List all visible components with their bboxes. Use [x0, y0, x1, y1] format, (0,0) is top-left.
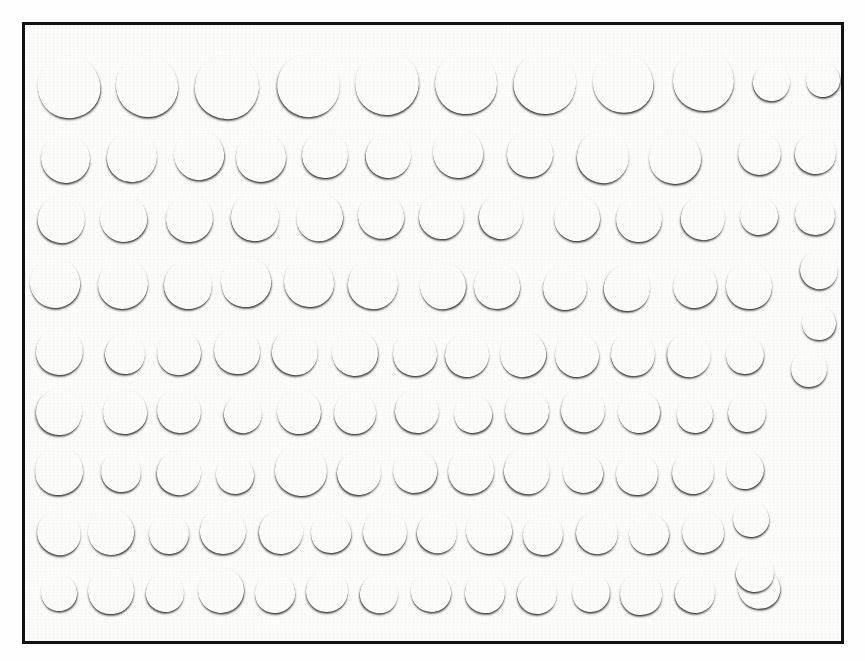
coin [268, 325, 323, 380]
coin [87, 567, 135, 615]
coin [99, 450, 143, 494]
coin [98, 259, 148, 309]
coin [356, 191, 407, 242]
coin [160, 257, 217, 314]
coin [37, 571, 81, 615]
coin [389, 445, 441, 497]
coin [587, 47, 658, 118]
coin [213, 453, 256, 496]
coin [644, 127, 706, 189]
coin [796, 247, 843, 294]
coin [725, 262, 773, 310]
plate-frame-border [22, 22, 844, 644]
coin-hoard-figure [0, 0, 865, 661]
coin [147, 512, 191, 556]
coin [726, 392, 768, 434]
coin [613, 386, 666, 439]
coin [791, 129, 840, 178]
coin [234, 130, 289, 185]
coin [790, 350, 828, 388]
coin [82, 503, 140, 561]
coin [308, 510, 354, 556]
coin [100, 387, 150, 437]
coin [253, 571, 297, 615]
coin [615, 452, 659, 496]
coin [795, 195, 835, 235]
coin [723, 333, 766, 376]
coin [344, 255, 401, 312]
coin [429, 124, 486, 181]
coin [94, 189, 152, 247]
coin [360, 127, 417, 184]
coin [473, 189, 528, 244]
coin [39, 132, 90, 183]
coin [472, 261, 523, 312]
coin [462, 504, 517, 559]
coin [507, 45, 583, 121]
coin [414, 257, 472, 315]
coin [572, 508, 622, 558]
coin [143, 571, 186, 614]
coin [571, 125, 635, 189]
coin [802, 59, 844, 101]
coin [283, 256, 336, 309]
coin [568, 570, 613, 615]
coin [33, 191, 89, 247]
coin [494, 325, 552, 383]
coin [101, 330, 150, 379]
coin [799, 303, 839, 343]
coin [738, 132, 781, 175]
coin [350, 46, 423, 119]
coin [598, 259, 656, 317]
coin [721, 446, 769, 494]
coin [513, 570, 562, 619]
coin [681, 510, 725, 554]
coin [675, 395, 715, 435]
coin [553, 331, 601, 379]
coin [615, 195, 663, 243]
coin [464, 572, 506, 614]
coin [153, 327, 205, 379]
coin [362, 509, 408, 555]
coin [103, 128, 160, 185]
coin-layout-field [25, 25, 841, 641]
coin [413, 509, 462, 558]
coin [214, 328, 260, 374]
coin [192, 52, 262, 122]
coin [289, 187, 348, 246]
coin [167, 123, 230, 186]
coin [620, 573, 662, 615]
coin [506, 130, 554, 178]
coin [156, 388, 202, 434]
coin [450, 391, 497, 438]
coin [559, 449, 608, 498]
coin [151, 445, 206, 500]
coin [392, 331, 438, 377]
coin [30, 48, 108, 126]
coin [228, 190, 283, 245]
coin [192, 561, 250, 619]
coin [304, 568, 350, 614]
coin [442, 330, 492, 380]
coin [164, 193, 213, 242]
coin [274, 443, 329, 498]
coin [327, 325, 383, 381]
coin [448, 448, 494, 494]
coin [523, 515, 563, 555]
coin [416, 191, 465, 240]
coin [609, 330, 657, 378]
coin [113, 52, 181, 120]
coin [253, 504, 308, 559]
coin [220, 391, 267, 438]
coin [273, 386, 325, 438]
coin [551, 192, 604, 245]
coin [541, 264, 589, 312]
coin [670, 261, 720, 311]
coin [33, 445, 86, 498]
coin [215, 251, 276, 312]
coin [34, 508, 84, 558]
coin [391, 385, 443, 437]
coin [408, 569, 454, 615]
coin [625, 510, 674, 559]
coin [25, 253, 84, 312]
